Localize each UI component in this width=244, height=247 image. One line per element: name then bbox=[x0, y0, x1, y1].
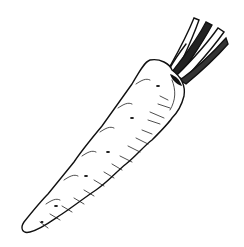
carrot-illustration bbox=[0, 0, 244, 247]
carrot-body bbox=[22, 60, 184, 233]
